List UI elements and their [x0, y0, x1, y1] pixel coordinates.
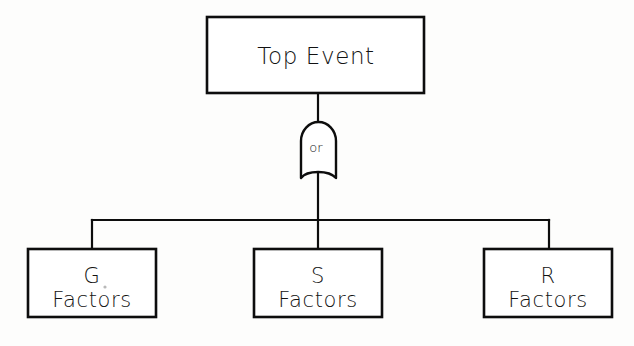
leaf-s-label-line1: S	[311, 264, 325, 288]
leaf-s-label-line2: Factors	[278, 288, 357, 312]
leaf-g-label-line2: Factors	[52, 288, 131, 312]
scan-speck	[103, 285, 106, 288]
or-gate-label: or	[309, 140, 323, 155]
top-event-label: Top Event	[257, 43, 374, 69]
leaf-g-label-line1: G	[84, 264, 101, 288]
leaf-r-label-line1: R	[540, 264, 555, 288]
fault-tree-diagram: Top Event or G Factors S Factors R Facto…	[0, 0, 634, 346]
leaf-r-label-line2: Factors	[508, 288, 587, 312]
